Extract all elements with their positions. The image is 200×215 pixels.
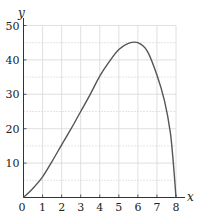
y-tick-label: 10 [6,157,20,170]
x-tick-label: 8 [173,201,180,214]
x-axis-label: x [187,190,194,204]
x-tick-label: 7 [153,201,160,214]
x-tick-label: 6 [134,201,141,214]
x-tick-label: 1 [39,201,46,214]
y-tick-label: 30 [6,88,20,101]
x-tick-label: 0 [19,201,26,214]
x-tick-label: 5 [115,201,122,214]
x-tick-label: 3 [77,201,84,214]
y-tick-label: 50 [6,20,20,33]
axes [24,18,186,198]
y-tick-label: 20 [6,123,20,136]
x-tick-label: 4 [96,201,103,214]
x-tick-label: 2 [58,201,65,214]
line-chart: 0123456781020304050 x y [0,0,200,215]
ticks: 0123456781020304050 [6,20,180,215]
y-tick-label: 40 [6,54,20,67]
y-axis-label: y [17,6,25,20]
